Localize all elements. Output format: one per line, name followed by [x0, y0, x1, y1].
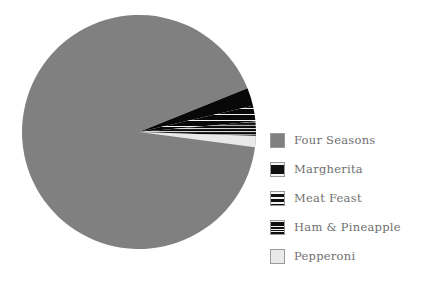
legend-label-pepperoni: Pepperoni [294, 251, 355, 263]
legend-label-margherita: Margherita [294, 164, 363, 176]
chart-legend: Four Seasons Margherita Meat Feast Ham &… [270, 126, 429, 271]
legend-item-meat-feast: Meat Feast [270, 184, 429, 213]
legend-swatch-ham-pineapple [270, 220, 285, 235]
legend-item-four-seasons: Four Seasons [270, 126, 429, 155]
legend-swatch-meat-feast [270, 191, 285, 206]
legend-swatch-margherita [270, 162, 285, 177]
legend-item-pepperoni: Pepperoni [270, 242, 429, 271]
legend-item-ham-pineapple: Ham & Pineapple [270, 213, 429, 242]
legend-label-four-seasons: Four Seasons [294, 135, 376, 147]
pie-chart-figure: Four Seasons Margherita Meat Feast Ham &… [0, 0, 429, 290]
legend-label-ham-pineapple: Ham & Pineapple [294, 222, 401, 234]
legend-swatch-pepperoni [270, 249, 285, 264]
legend-item-margherita: Margherita [270, 155, 429, 184]
legend-label-meat-feast: Meat Feast [294, 193, 362, 205]
legend-swatch-four-seasons [270, 133, 285, 148]
